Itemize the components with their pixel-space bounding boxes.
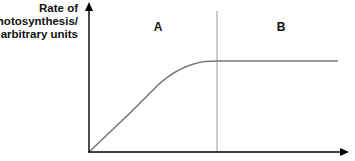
- y-axis-arrowhead-icon: [85, 2, 93, 11]
- chart-plot-area: A B: [0, 0, 355, 161]
- photosynthesis-rate-curve: [89, 61, 338, 152]
- x-axis-arrowhead-icon: [340, 148, 349, 156]
- region-label-a: A: [154, 20, 163, 34]
- region-label-b: B: [277, 20, 286, 34]
